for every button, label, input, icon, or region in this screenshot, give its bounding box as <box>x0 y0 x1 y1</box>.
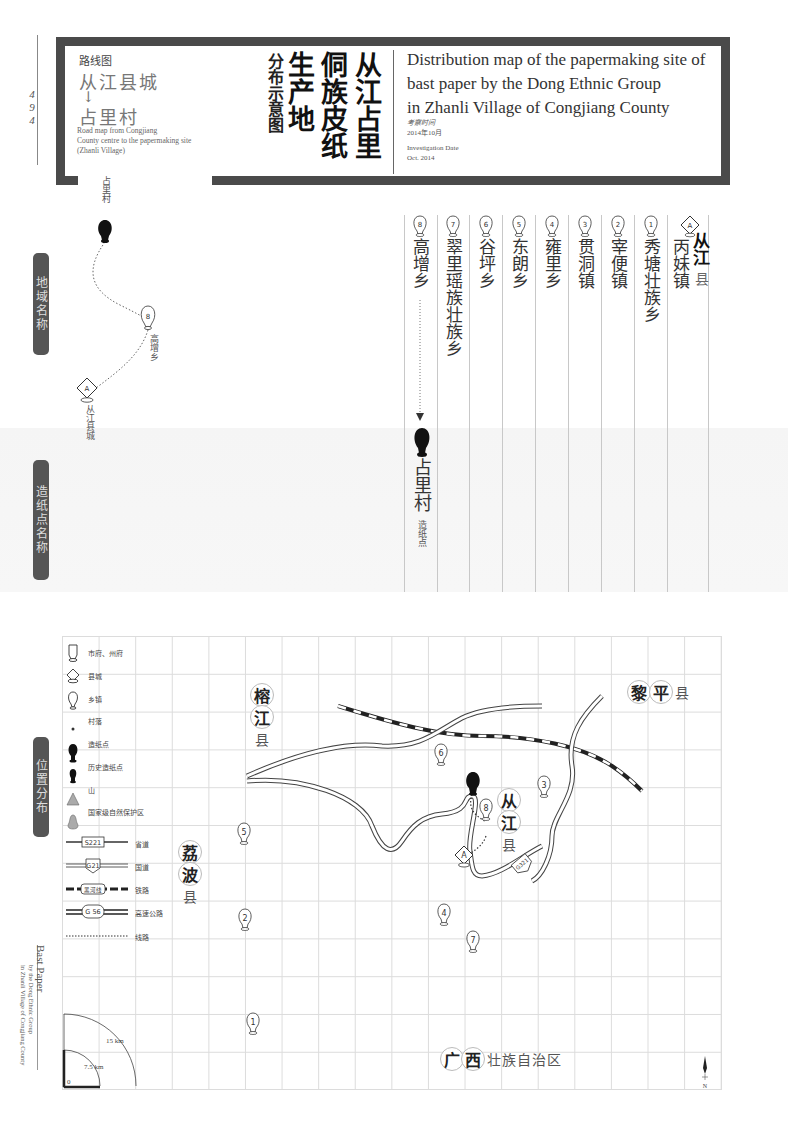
tab-site-names: 造纸点名称 <box>33 460 49 580</box>
township-8-icon: 8 <box>414 216 426 237</box>
township-5-icon: 5 <box>238 823 250 845</box>
svg-text:2: 2 <box>242 914 247 923</box>
route-mini-map: 8 A <box>60 210 200 410</box>
svg-text:A: A <box>688 222 693 230</box>
county-seat-icon: A <box>77 378 97 402</box>
svg-text:N: N <box>703 1083 708 1089</box>
county-label-rongjiang: 榕 江 县 <box>250 683 274 749</box>
header-frame-bottom-left <box>56 176 78 185</box>
tab-location: 位置分布 <box>33 737 49 837</box>
township-2-icon: 2 <box>239 909 251 931</box>
header-frame-left <box>56 37 65 185</box>
township-6-icon: 6 <box>480 216 492 237</box>
township-2-icon: 2 <box>612 216 624 237</box>
svg-text:3: 3 <box>583 221 587 229</box>
column-divider <box>634 215 635 592</box>
region-name-8: 高增乡 <box>410 238 429 289</box>
footer-title: Bast Paper <box>38 945 50 1070</box>
tab-region-names: 地域名称 <box>33 253 49 355</box>
national-road-badge: G321 <box>511 854 534 877</box>
township-3-icon: 3 <box>579 216 591 237</box>
column-divider <box>437 215 438 592</box>
title-cn-col-1: 从江占里 <box>352 51 381 159</box>
region-name-5: 东朗乡 <box>509 238 528 289</box>
county-suffix: 县 <box>691 272 711 286</box>
svg-text:7: 7 <box>451 221 455 229</box>
svg-text:8: 8 <box>146 313 150 321</box>
title-cn-col-2: 侗族皮纸 <box>318 51 347 159</box>
column-divider <box>404 215 405 592</box>
svg-text:5: 5 <box>517 221 521 229</box>
header-frame-bottom-right <box>212 176 730 185</box>
route-arrow-down <box>414 300 426 425</box>
column-divider <box>502 215 503 592</box>
svg-text:6: 6 <box>484 221 489 229</box>
township-4-icon: 4 <box>546 216 558 237</box>
column-divider <box>535 215 536 592</box>
scale-bar <box>64 1014 136 1088</box>
region-name-a: 丙妹镇 <box>670 238 689 289</box>
site-name: 占里村 <box>411 458 431 512</box>
svg-text:6: 6 <box>438 749 443 758</box>
region-name-4: 雍里乡 <box>542 238 561 289</box>
papermaking-site-icon <box>466 772 480 796</box>
region-name-3: 贯洞镇 <box>575 238 594 289</box>
route-map-label: 路线图 <box>79 52 112 68</box>
site-row-band <box>0 428 788 592</box>
county-label-liping: 黎 平 县 <box>627 680 689 704</box>
page-number: 4 9 4 <box>27 88 37 127</box>
township-5-icon: 5 <box>513 216 525 237</box>
route-english: Road map from Congjiang County centre to… <box>77 126 237 156</box>
region-name-2: 宰便镇 <box>608 238 627 289</box>
header-frame-top <box>56 37 730 46</box>
papermaking-site-icon <box>98 220 112 243</box>
township-3-icon: 3 <box>538 776 550 798</box>
county-label-libo: 荔 波 县 <box>178 840 202 906</box>
column-divider <box>469 215 470 592</box>
map-features: G321 6 3 8 5 2 4 7 1 A 0 7.5 km 15 km N <box>62 636 722 1090</box>
svg-text:8: 8 <box>483 804 488 813</box>
site-type-label: 造纸点 <box>416 520 427 547</box>
region-name-1: 秀塘壮族乡 <box>641 238 660 323</box>
svg-text:1: 1 <box>250 1018 255 1027</box>
margin-rule <box>37 35 38 165</box>
title-cn-col-3: 生产地 <box>285 51 314 132</box>
svg-text:A: A <box>461 851 467 860</box>
region-name-6: 谷坪乡 <box>476 238 495 289</box>
township-4-icon: 4 <box>438 904 450 926</box>
header-divider <box>393 50 394 174</box>
route-waypoint-label: 高增乡 <box>148 334 159 361</box>
svg-text:8: 8 <box>418 221 422 229</box>
township-7-icon: 7 <box>447 216 459 237</box>
svg-text:7: 7 <box>470 936 475 945</box>
township-8-icon: 8 <box>480 799 492 821</box>
svg-text:0: 0 <box>67 1078 71 1086</box>
township-1-icon: 1 <box>645 216 657 237</box>
svg-text:7.5 km: 7.5 km <box>84 1063 104 1071</box>
township-1-icon: 1 <box>247 1013 259 1035</box>
township-6-icon: 6 <box>435 744 447 766</box>
papermaking-site-icon <box>410 426 434 460</box>
north-arrow-icon: N <box>702 1056 708 1089</box>
county-label-congjiang: 从 江 县 <box>497 788 521 854</box>
svg-text:4: 4 <box>550 221 555 229</box>
svg-text:1: 1 <box>649 221 653 229</box>
township-7-icon: 7 <box>467 931 479 953</box>
svg-text:A: A <box>85 385 90 393</box>
route-end-label: 从江县城 <box>84 404 95 440</box>
svg-text:2: 2 <box>616 221 620 229</box>
county-name-congjiang: 从江 <box>690 232 709 266</box>
svg-text:4: 4 <box>441 909 446 918</box>
column-divider <box>601 215 602 592</box>
investigation-date: 考察时间 2014年10月 Investigation Date Oct. 20… <box>407 119 459 163</box>
svg-text:15 km: 15 km <box>106 1037 124 1045</box>
township-8-icon: 8 <box>141 306 155 330</box>
title-english: Distribution map of the papermaking site… <box>407 48 717 120</box>
region-label-guangxi: 广 西 壮族自治区 <box>440 1047 562 1071</box>
svg-text:5: 5 <box>241 828 246 837</box>
column-divider <box>667 215 668 592</box>
route-start-label: 占里村 <box>100 176 111 203</box>
region-name-7: 翠里瑶族壮族乡 <box>443 238 462 357</box>
title-cn-subtitle: 分布示意图 <box>266 53 283 133</box>
header-frame-right <box>721 37 730 185</box>
